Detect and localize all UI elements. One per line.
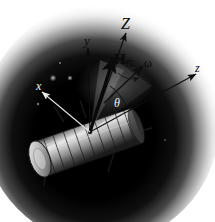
label-Z-axis: Z (121, 16, 130, 32)
spacecraft-attitude-figure: Z y HG ω z x θ (0, 0, 215, 222)
label-y-axis: y (84, 34, 90, 47)
label-H-symbol: H (114, 51, 126, 67)
vector-x-axis (42, 92, 90, 132)
label-z-axis: z (195, 62, 200, 74)
label-x-axis: x (36, 80, 41, 92)
label-angular-momentum: HG (114, 52, 133, 69)
label-H-subscript: G (126, 58, 133, 69)
vector-overlay-layer (0, 0, 215, 222)
label-nutation-angle: θ (114, 97, 120, 109)
vector-y-axis (88, 48, 90, 132)
precession-arc (118, 73, 139, 79)
label-angular-velocity: ω (144, 57, 152, 69)
